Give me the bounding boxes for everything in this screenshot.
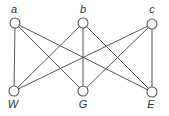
node-label: G (79, 98, 88, 110)
bipartite-graph-diagram: abcWGE (0, 0, 169, 116)
node-label: b (80, 3, 86, 15)
node-circle-icon (10, 18, 20, 28)
edges-group (14, 23, 152, 92)
node-label: W (8, 98, 20, 110)
node-b: b (78, 3, 88, 28)
node-circle-icon (9, 86, 19, 96)
node-label: c (149, 3, 155, 15)
node-circle-icon (147, 87, 157, 97)
node-a: a (10, 3, 20, 28)
node-G: G (78, 86, 88, 110)
node-label: a (11, 3, 17, 15)
edge-a-W (14, 23, 15, 91)
node-label: E (147, 98, 155, 110)
node-W: W (8, 86, 20, 110)
node-c: c (147, 3, 157, 29)
node-circle-icon (78, 86, 88, 96)
node-circle-icon (147, 19, 157, 29)
node-E: E (147, 87, 157, 110)
node-circle-icon (78, 18, 88, 28)
